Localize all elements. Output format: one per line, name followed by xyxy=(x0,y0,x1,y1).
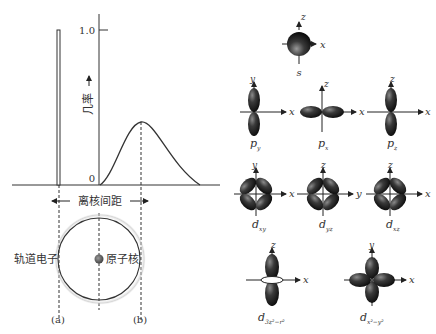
svg-text:p: p xyxy=(318,137,325,150)
svg-text:xz: xz xyxy=(393,225,400,232)
panel-label-a: (a) xyxy=(51,314,65,325)
svg-text:yz: yz xyxy=(325,225,333,233)
svg-text:d: d xyxy=(252,218,259,231)
svg-text:3z²−r²: 3z²−r² xyxy=(265,318,285,325)
svg-text:x: x xyxy=(425,106,431,117)
svg-text:z: z xyxy=(300,12,306,22)
svg-text:x: x xyxy=(320,39,326,50)
svg-text:x: x xyxy=(303,274,309,285)
svg-text:y: y xyxy=(368,240,375,250)
svg-text:s: s xyxy=(296,67,301,78)
svg-text:x: x xyxy=(325,144,329,151)
svg-text:x²−y²: x²−y² xyxy=(367,318,384,326)
svg-text:z: z xyxy=(393,144,398,151)
orbital-px: z x p x xyxy=(300,79,365,151)
svg-text:d: d xyxy=(386,218,393,231)
y-tick-1: 1.0 xyxy=(79,25,95,36)
svg-text:x: x xyxy=(425,188,431,199)
svg-text:x: x xyxy=(289,188,295,199)
svg-text:p: p xyxy=(387,137,394,150)
svg-text:d: d xyxy=(319,218,326,231)
svg-text:y: y xyxy=(256,144,261,152)
svg-text:y: y xyxy=(355,188,362,199)
svg-text:z: z xyxy=(323,79,329,89)
orbital-dz2: z x d 3z²−r² xyxy=(246,240,309,325)
svg-text:z: z xyxy=(389,74,395,84)
svg-text:y: y xyxy=(251,160,258,170)
nucleus-label: 原子核 xyxy=(106,252,139,266)
svg-text:d: d xyxy=(360,311,367,324)
svg-text:z: z xyxy=(320,160,326,170)
y-tick-0: 0 xyxy=(89,173,95,184)
y-axis-label: 几率 xyxy=(81,93,95,115)
orbital-s: z x s xyxy=(282,12,326,78)
svg-text:x: x xyxy=(289,106,295,117)
orbital-dx2y2: y x d x²−y² xyxy=(344,240,415,326)
svg-text:xy: xy xyxy=(259,225,266,233)
diagram-canvas: 1.0 0 几率 离核间距 原子核 轨道电子 (a) (b) xyxy=(0,0,436,334)
x-axis-label: 离核间距 xyxy=(78,194,122,208)
probability-chart: 1.0 0 几率 离核间距 原子核 轨道电子 (a) (b) xyxy=(12,14,220,325)
bohr-spike xyxy=(57,30,60,185)
s-sphere xyxy=(287,32,311,56)
electron-label: 轨道电子 xyxy=(14,252,58,266)
orbital-py: y x p y xyxy=(240,74,295,152)
svg-text:d: d xyxy=(258,311,265,324)
svg-text:x: x xyxy=(409,274,415,285)
panel-label-b: (b) xyxy=(133,314,147,325)
svg-text:x: x xyxy=(359,106,365,117)
orbital-dxz: z x d xz xyxy=(366,160,431,232)
svg-text:z: z xyxy=(270,240,276,250)
probability-curve xyxy=(100,122,200,185)
svg-text:y: y xyxy=(249,74,256,84)
svg-text:z: z xyxy=(387,160,393,170)
orbital-dxy: y x d xy xyxy=(234,160,295,233)
nucleus xyxy=(95,255,104,264)
orbital-pz: z x p z xyxy=(367,74,431,151)
orbital-dyz: z y d yz xyxy=(297,160,362,233)
svg-text:p: p xyxy=(250,137,257,150)
